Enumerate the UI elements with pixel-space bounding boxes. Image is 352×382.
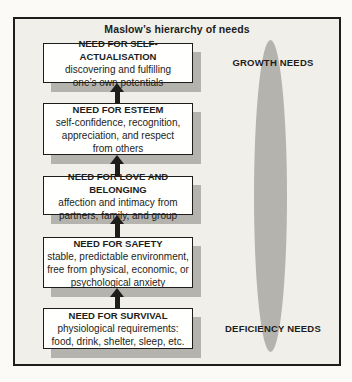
level-line: affection and intimacy from	[44, 196, 192, 209]
level-line: from others	[44, 142, 192, 155]
growth-needs-label: GROWTH NEEDS	[208, 57, 338, 68]
arrow-head	[110, 288, 124, 297]
level-heading: NEED FOR SELF-ACTUALISATION	[44, 37, 192, 63]
level-box-survival: NEED FOR SURVIVAL physiological requirem…	[43, 308, 193, 349]
level-line: psychological anxiety	[44, 276, 192, 289]
up-arrow-icon	[110, 288, 124, 309]
diagram-title: Maslow’s hierarchy of needs	[15, 23, 339, 35]
diagram-frame: Maslow’s hierarchy of needs GROWTH NEEDS…	[13, 17, 341, 366]
level-box-love-belonging: NEED FOR LOVE AND BELONGING affection an…	[43, 176, 193, 215]
needs-spectrum-oval	[254, 40, 287, 352]
level-box-safety: NEED FOR SAFETY stable, predictable envi…	[43, 237, 193, 288]
deficiency-needs-label: DEFICIENCY NEEDS	[208, 323, 338, 334]
level-line: one’s own potentials	[44, 76, 192, 89]
level-line: stable, predictable environment,	[44, 250, 192, 263]
level-line: appreciation, and respect	[44, 129, 192, 142]
level-box-esteem: NEED FOR ESTEEM self-confidence, recogni…	[43, 103, 193, 155]
level-heading: NEED FOR ESTEEM	[44, 103, 192, 116]
level-line: self-confidence, recognition,	[44, 116, 192, 129]
level-heading: NEED FOR LOVE AND BELONGING	[44, 170, 192, 196]
level-line: free from physical, economic, or	[44, 263, 192, 276]
level-heading: NEED FOR SURVIVAL	[44, 309, 192, 322]
level-box-self-actualisation: NEED FOR SELF-ACTUALISATION discovering …	[43, 43, 193, 83]
level-line: food, drink, shelter, sleep, etc.	[44, 335, 192, 348]
level-line: discovering and fulfilling	[44, 63, 192, 76]
page: Maslow’s hierarchy of needs GROWTH NEEDS…	[0, 0, 352, 382]
level-heading: NEED FOR SAFETY	[44, 237, 192, 250]
level-line: physiological requirements:	[44, 322, 192, 335]
arrow-head	[110, 155, 124, 164]
level-line: partners, family, and group	[44, 209, 192, 222]
